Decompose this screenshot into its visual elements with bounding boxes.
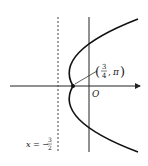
directrix-label: x = − 3 2 (26, 136, 52, 151)
svg-text:π: π (112, 67, 120, 77)
vertex-point (71, 84, 75, 88)
diagram-canvas: ( 3 4 , π ) O x = − 3 2 (0, 0, 148, 166)
origin-label: O (92, 89, 100, 99)
point-label: ( 3 4 , π ) (95, 63, 125, 80)
svg-text:3: 3 (48, 136, 52, 143)
svg-text:,: , (108, 67, 111, 77)
svg-text:): ) (120, 64, 125, 79)
svg-text:4: 4 (102, 72, 107, 80)
svg-text:3: 3 (102, 63, 106, 71)
svg-text:x = −: x = − (26, 140, 49, 149)
svg-text:(: ( (95, 64, 100, 79)
pointer-line (75, 71, 97, 84)
svg-text:2: 2 (48, 144, 52, 151)
